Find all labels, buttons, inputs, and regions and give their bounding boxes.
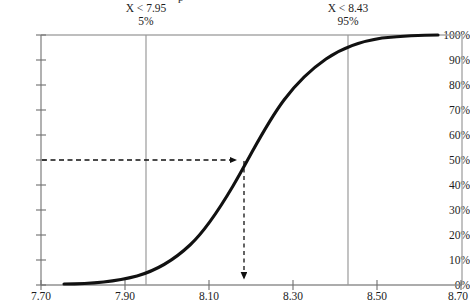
- plot-area-svg: [0, 0, 470, 304]
- cumulative-distribution-chart: p X < 7.95 5% X < 8.43 95% 100% 90% 80% …: [0, 0, 470, 304]
